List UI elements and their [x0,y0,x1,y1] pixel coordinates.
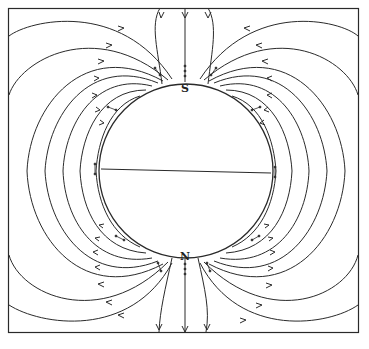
field-line-right-7b [204,255,358,300]
field-line-bottom-right [198,258,207,332]
pole-label-south: S [181,82,189,95]
field-line-left-7b [9,255,168,300]
magnetic-field-diagram: S N [0,0,369,349]
needle-left-upper [107,106,117,111]
needle-bottom-right [206,262,211,272]
field-line-left-8b [9,263,172,321]
pole-label-north: N [180,250,190,263]
needle-right-lower [251,235,260,241]
field-line-left-8 [9,21,172,79]
diagram-canvas: S N [0,0,369,349]
needle-left-lower [115,235,125,241]
needle-bottom-center [184,263,186,275]
needle-top-center [184,65,186,77]
needle-top-right [210,67,217,76]
field-line-right-8b [200,263,358,321]
field-line-left-7 [9,48,168,95]
